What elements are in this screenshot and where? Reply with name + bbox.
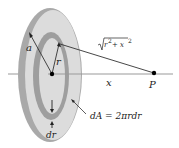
label-dr: dr	[46, 130, 57, 140]
label-distance: r 2 + x 2	[98, 37, 132, 50]
label-p: P	[148, 79, 156, 90]
label-a: a	[26, 42, 32, 53]
label-distance-plus: + x	[112, 41, 124, 49]
disk-field-diagram: a r r 2 + x 2 x P dr dA = 2πrdr	[0, 0, 179, 148]
label-area-element: dA = 2πrdr	[90, 111, 142, 121]
label-distance-sup2: 2	[128, 37, 132, 44]
center-point	[50, 72, 54, 76]
label-x: x	[106, 77, 112, 88]
point-p	[152, 71, 156, 75]
